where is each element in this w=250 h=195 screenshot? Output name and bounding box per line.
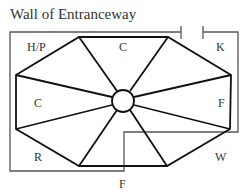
diagram-title: Wall of Entranceway [10,6,137,22]
spoke [134,105,230,129]
region-label-bottom-left: R [34,150,42,164]
spoke [16,105,112,129]
spoke [79,37,117,91]
region-label-bottom-right: W [215,150,227,164]
region-label-right: F [218,96,225,110]
region-label-bottom: F [119,177,126,191]
spoke [130,110,167,166]
spoke [79,110,117,166]
region-label-top-left: H/P [27,40,46,54]
spoke [16,75,112,97]
spoke [130,37,168,91]
region-label-top-right: K [216,40,225,54]
region-label-left: C [34,96,42,110]
bagua-diagram: Wall of Entranceway H/P C K C F R W F [0,0,250,195]
spoke [134,75,231,97]
region-label-top: C [119,40,127,54]
center-circle [112,90,134,112]
